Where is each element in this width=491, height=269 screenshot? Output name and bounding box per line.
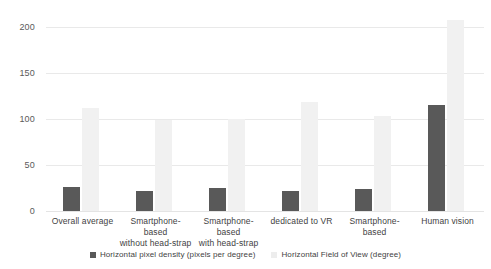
bar-group	[46, 27, 119, 211]
bar-field-of-view	[447, 20, 464, 211]
bar-group	[411, 27, 484, 211]
y-tick-label: 150	[19, 68, 35, 78]
bars-layer	[46, 27, 484, 211]
x-tick-label-line: Smartphone-based	[338, 216, 411, 238]
y-tick-label: 0	[30, 206, 35, 216]
y-tick-label: 200	[19, 22, 35, 32]
bar-pixel-density	[428, 105, 445, 211]
bar-group	[119, 27, 192, 211]
x-tick-label-line: without head-strap	[119, 238, 192, 249]
x-tick-label-line: Smartphone-based	[119, 216, 192, 238]
legend-label: Horizontal Field of View (degree)	[281, 250, 401, 259]
y-tick-label: 100	[19, 114, 35, 124]
legend-item[interactable]: Horizontal Field of View (degree)	[271, 250, 401, 259]
legend-item[interactable]: Horizontal pixel density (pixels per deg…	[90, 250, 256, 259]
bar-chart: 050100150200 Overall averageSmartphone-b…	[0, 0, 491, 269]
x-tick-label-line: Human vision	[411, 216, 484, 227]
bar-pixel-density	[63, 187, 80, 211]
x-tick-label: Human vision	[411, 216, 484, 227]
x-axis: Overall averageSmartphone-basedwithout h…	[46, 216, 484, 246]
bar-field-of-view	[155, 120, 172, 211]
chart-legend: Horizontal pixel density (pixels per deg…	[0, 250, 491, 259]
x-tick-label-line: dedicated to VR	[265, 216, 338, 227]
legend-label: Horizontal pixel density (pixels per deg…	[100, 250, 256, 259]
bar-field-of-view	[228, 119, 245, 211]
x-tick-label-line: Overall average	[46, 216, 119, 227]
bar-pixel-density	[136, 191, 153, 211]
x-tick-label: dedicated to VR	[265, 216, 338, 227]
x-tick-label-line: Smartphone-based	[192, 216, 265, 238]
y-axis: 050100150200	[0, 0, 44, 269]
bar-group	[192, 27, 265, 211]
x-tick-label-line: with head-strap	[192, 238, 265, 249]
legend-swatch-icon	[271, 252, 277, 258]
x-tick-label: Smartphone-based	[338, 216, 411, 238]
y-tick-label: 50	[25, 160, 35, 170]
bar-field-of-view	[82, 108, 99, 211]
x-tick-label: Overall average	[46, 216, 119, 227]
legend-swatch-icon	[90, 252, 96, 258]
bar-field-of-view	[301, 102, 318, 211]
bar-field-of-view	[374, 116, 391, 211]
bar-pixel-density	[209, 188, 226, 211]
x-tick-label: Smartphone-basedwithout head-strap	[119, 216, 192, 249]
x-tick-label: Smartphone-basedwith head-strap	[192, 216, 265, 249]
gridline-0	[46, 211, 484, 212]
bar-group	[265, 27, 338, 211]
bar-group	[338, 27, 411, 211]
bar-pixel-density	[282, 191, 299, 211]
bar-pixel-density	[355, 189, 372, 211]
